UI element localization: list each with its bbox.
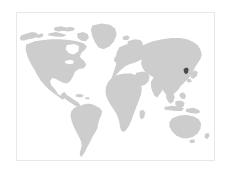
map-screenshot-root: World Map <box>0 0 231 174</box>
world-map-svg[interactable] <box>17 13 214 160</box>
land-hispaniola <box>85 97 90 99</box>
world-map-frame <box>16 12 215 161</box>
